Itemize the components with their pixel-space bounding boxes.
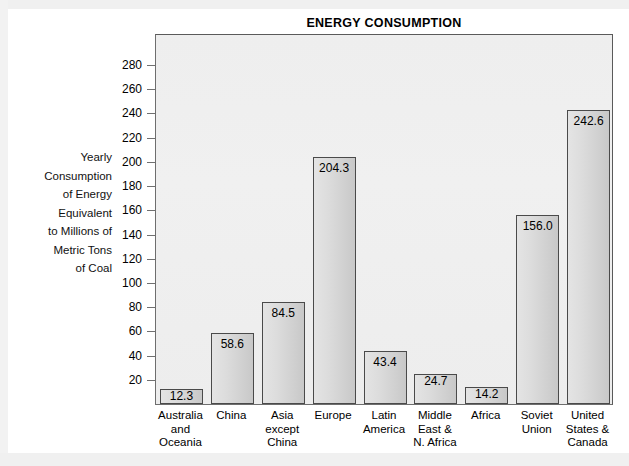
- bar-value-label: 156.0: [517, 219, 558, 233]
- bar: 43.4: [364, 351, 407, 404]
- bar-value-label: 58.6: [212, 337, 253, 351]
- y-axis-title-line: Metric Tons: [12, 241, 112, 260]
- y-axis-title-line: Consumption: [12, 167, 112, 186]
- y-axis-tick-label: 240: [108, 106, 142, 120]
- bar-value-label: 84.5: [263, 306, 304, 320]
- y-axis-tick-label: 180: [108, 179, 142, 193]
- y-axis-tick-label: 200: [108, 155, 142, 169]
- x-axis-category-label-line: Oceania: [149, 436, 212, 450]
- y-axis-tick-label: 120: [108, 252, 142, 266]
- y-axis-tick-label: 20: [108, 373, 142, 387]
- bar: 156.0: [516, 215, 559, 404]
- y-axis-title-line: of Energy: [12, 185, 112, 204]
- y-axis-title-line: to Millions of: [12, 222, 112, 241]
- page-top-margin-band: [0, 0, 629, 9]
- y-axis-labels: 28026024022020018016014012010080604020: [104, 0, 142, 466]
- x-axis-category-label-line: except: [251, 423, 314, 437]
- x-axis-category-label-line: and: [149, 423, 212, 437]
- x-axis-category-label-line: East &: [403, 423, 466, 437]
- y-axis-tick-label: 140: [108, 228, 142, 242]
- plot-area: 12.358.684.5204.343.424.714.2156.0242.6: [155, 34, 613, 405]
- y-axis-title-line: Equivalent: [12, 204, 112, 223]
- y-axis-tick-label: 160: [108, 203, 142, 217]
- page-bottom-margin-band: [0, 453, 629, 466]
- y-axis-tick-label: 100: [108, 276, 142, 290]
- bar-value-label: 24.7: [415, 374, 456, 388]
- y-axis-tick-label: 260: [108, 82, 142, 96]
- x-axis-category-label-line: States &: [556, 423, 619, 437]
- bar: 58.6: [211, 333, 254, 404]
- x-axis-category-label-line: China: [251, 436, 314, 450]
- y-axis-title: Yearly Consumption of Energy Equivalent …: [12, 148, 112, 278]
- y-axis-tick-label: 60: [108, 324, 142, 338]
- bar: 14.2: [465, 387, 508, 404]
- bar: 204.3: [313, 157, 356, 404]
- bar: 24.7: [414, 374, 457, 404]
- bar-value-label: 204.3: [314, 161, 355, 175]
- y-axis-tick-label: 280: [108, 58, 142, 72]
- bar-value-label: 14.2: [466, 387, 507, 401]
- bar: 242.6: [567, 110, 610, 404]
- bar: 84.5: [262, 302, 305, 404]
- y-axis-tick-label: 220: [108, 131, 142, 145]
- y-axis-title-line: Yearly: [12, 148, 112, 167]
- bar-value-label: 43.4: [365, 355, 406, 369]
- x-axis-category-label-line: N. Africa: [403, 436, 466, 450]
- chart-title: ENERGY CONSUMPTION: [155, 16, 613, 30]
- bar-value-label: 12.3: [161, 389, 202, 403]
- bar-value-label: 242.6: [568, 114, 609, 128]
- x-axis-category-label: UnitedStates &Canada: [556, 409, 619, 450]
- x-axis-category-label-line: United: [556, 409, 619, 423]
- y-axis-tick-label: 80: [108, 300, 142, 314]
- y-axis-title-line: of Coal: [12, 259, 112, 278]
- bar: 12.3: [160, 389, 203, 404]
- page-left-margin-band: [0, 0, 8, 466]
- y-axis-tick-label: 40: [108, 349, 142, 363]
- x-axis-category-label-line: Canada: [556, 436, 619, 450]
